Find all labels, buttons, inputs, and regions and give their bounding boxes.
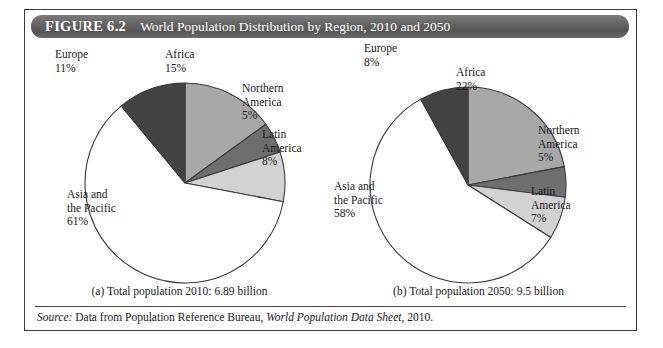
pie-label-percent: 7% bbox=[531, 212, 571, 226]
pie-label-percent: 11% bbox=[55, 62, 88, 76]
pie-label-name: Europe bbox=[364, 42, 397, 56]
pie-label-latin-america: LatinAmerica8% bbox=[262, 128, 302, 169]
pie-label-name: America bbox=[538, 138, 580, 152]
pie-label-name: Latin bbox=[531, 185, 571, 199]
source-divider bbox=[35, 306, 626, 307]
source-text-2: , 2010. bbox=[402, 311, 434, 323]
source-note: Source: Data from Population Reference B… bbox=[37, 311, 433, 323]
pie-label-name: Northern bbox=[538, 124, 580, 138]
source-publication: World Population Data Sheet bbox=[266, 311, 401, 323]
pie-label-name: the Pacific bbox=[334, 194, 383, 208]
pie-label-percent: 5% bbox=[242, 109, 284, 123]
pie-label-latin-america: LatinAmerica7% bbox=[531, 185, 571, 226]
figure-number: FIGURE 6.2 bbox=[45, 18, 126, 35]
pie-label-northern-america: NorthernAmerica5% bbox=[242, 82, 284, 123]
pie-label-northern-america: NorthernAmerica5% bbox=[538, 124, 580, 165]
pie-label-name: Europe bbox=[55, 48, 88, 62]
pie-label-africa: Africa15% bbox=[165, 48, 194, 75]
pie-label-asia-and-the-pacific: Asia andthe Pacific61% bbox=[67, 188, 116, 229]
pie-label-europe: Europe8% bbox=[364, 42, 397, 69]
pie-panel-2050: Africa22%NorthernAmerica5%LatinAmerica7%… bbox=[326, 40, 631, 288]
pie-label-europe: Europe11% bbox=[55, 48, 88, 75]
pie-label-percent: 5% bbox=[538, 151, 580, 165]
figure-title-bar: FIGURE 6.2 World Population Distribution… bbox=[31, 15, 629, 38]
pie-label-name: the Pacific bbox=[67, 202, 116, 216]
caption-2050: (b) Total population 2050: 9.5 billion bbox=[326, 285, 631, 297]
pie-label-name: Asia and bbox=[334, 180, 383, 194]
pie-label-asia-and-the-pacific: Asia andthe Pacific58% bbox=[334, 180, 383, 221]
pie-label-name: Asia and bbox=[67, 188, 116, 202]
pie-label-percent: 22% bbox=[456, 80, 485, 94]
pie-label-percent: 58% bbox=[334, 207, 383, 221]
pie-label-percent: 8% bbox=[262, 155, 302, 169]
source-text-1: Data from Population Reference Bureau, bbox=[72, 311, 266, 323]
figure-title: World Population Distribution by Region,… bbox=[140, 19, 450, 35]
source-prefix: Source: bbox=[37, 311, 72, 323]
pie-label-name: Africa bbox=[456, 66, 485, 80]
pie-label-name: Africa bbox=[165, 48, 194, 62]
charts-area: Africa15%NorthernAmerica5%LatinAmerica8%… bbox=[25, 40, 636, 288]
pie-label-africa: Africa22% bbox=[456, 66, 485, 93]
pie-label-name: Latin bbox=[262, 128, 302, 142]
pie-panel-2010: Africa15%NorthernAmerica5%LatinAmerica8%… bbox=[27, 40, 332, 288]
pie-label-name: America bbox=[242, 96, 284, 110]
caption-2010: (a) Total population 2010: 6.89 billion bbox=[27, 285, 332, 297]
figure-container: FIGURE 6.2 World Population Distribution… bbox=[24, 9, 637, 331]
pie-label-percent: 15% bbox=[165, 62, 194, 76]
pie-label-percent: 61% bbox=[67, 215, 116, 229]
pie-label-percent: 8% bbox=[364, 56, 397, 70]
pie-label-name: America bbox=[531, 199, 571, 213]
pie-label-name: Northern bbox=[242, 82, 284, 96]
pie-label-name: America bbox=[262, 142, 302, 156]
